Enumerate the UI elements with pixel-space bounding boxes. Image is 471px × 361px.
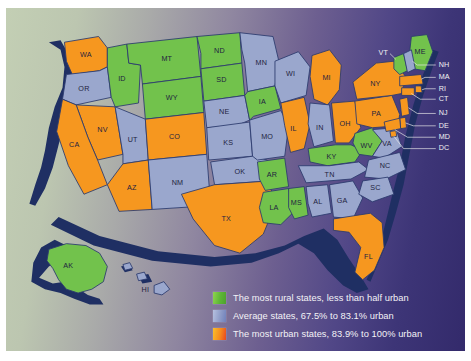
state-dc[interactable] <box>390 131 397 138</box>
map-legend: The most rural states, less than half ur… <box>213 291 457 345</box>
label-id: ID <box>118 75 126 83</box>
label-ia: IA <box>259 98 266 106</box>
label-nv: NV <box>97 126 107 134</box>
label-wa: WA <box>80 51 92 59</box>
label-ks: KS <box>223 139 233 147</box>
label-wi: WI <box>286 70 295 78</box>
label-ne: NE <box>219 108 229 116</box>
label-mn: MN <box>256 59 268 67</box>
label-fl: FL <box>364 253 373 261</box>
callout-vt: VT <box>378 50 388 58</box>
label-co: CO <box>169 133 180 141</box>
state-ri[interactable] <box>415 86 422 93</box>
label-me: ME <box>415 48 426 56</box>
label-ak: AK <box>63 262 73 270</box>
label-il: IL <box>290 125 296 133</box>
label-ca: CA <box>69 141 79 149</box>
state-ma[interactable] <box>400 75 423 86</box>
label-sc: SC <box>370 184 380 192</box>
legend-swatch-urban <box>213 328 226 340</box>
legend-swatch-average <box>213 310 226 322</box>
legend-row-rural[interactable]: The most rural states, less than half ur… <box>213 291 457 304</box>
label-la: LA <box>269 204 278 212</box>
callout-nh: NH <box>439 61 450 69</box>
label-tn: TN <box>325 171 335 179</box>
legend-label-urban: The most urban states, 83.9% to 100% urb… <box>233 329 422 339</box>
label-oh: OH <box>340 120 351 128</box>
label-ar: AR <box>267 171 277 179</box>
state-nj[interactable] <box>400 97 410 116</box>
label-sd: SD <box>216 76 226 84</box>
legend-row-average[interactable]: Average states, 67.5% to 83.1% urban <box>213 309 457 322</box>
label-tx: TX <box>221 215 231 223</box>
callout-ri: RI <box>439 85 447 93</box>
map-figure: WA OR ID MT WY NV CA UT CO AZ NM ND SD N… <box>0 0 471 361</box>
label-hi: HI <box>142 286 150 294</box>
callout-ma: MA <box>439 73 450 81</box>
label-ky: KY <box>326 153 336 161</box>
label-ok: OK <box>234 168 245 176</box>
label-ms: MS <box>291 199 302 207</box>
label-nd: ND <box>214 47 225 55</box>
label-va: VA <box>382 140 392 148</box>
label-ny: NY <box>370 80 380 88</box>
callout-dc: DC <box>439 145 450 153</box>
label-al: AL <box>313 198 322 206</box>
legend-label-average: Average states, 67.5% to 83.1% urban <box>233 311 394 321</box>
legend-row-urban[interactable]: The most urban states, 83.9% to 100% urb… <box>213 327 457 340</box>
label-az: AZ <box>127 184 137 192</box>
callout-de: DE <box>439 122 449 130</box>
label-ga: GA <box>337 197 348 205</box>
label-mi: MI <box>322 74 330 82</box>
label-nm: NM <box>172 179 184 187</box>
legend-label-rural: The most rural states, less than half ur… <box>233 293 409 303</box>
label-mt: MT <box>161 55 172 63</box>
label-wv: WV <box>361 142 373 150</box>
label-mo: MO <box>261 133 273 141</box>
label-in: IN <box>316 124 324 132</box>
label-nc: NC <box>380 162 391 170</box>
callout-nj: NJ <box>439 109 448 117</box>
map-plate: WA OR ID MT WY NV CA UT CO AZ NM ND SD N… <box>6 8 465 351</box>
label-wy: WY <box>166 94 178 102</box>
callout-ct: CT <box>439 95 449 103</box>
legend-swatch-rural <box>213 292 226 304</box>
callout-md: MD <box>439 133 451 141</box>
label-pa: PA <box>372 110 382 118</box>
label-ut: UT <box>128 136 138 144</box>
label-or: OR <box>78 85 89 93</box>
